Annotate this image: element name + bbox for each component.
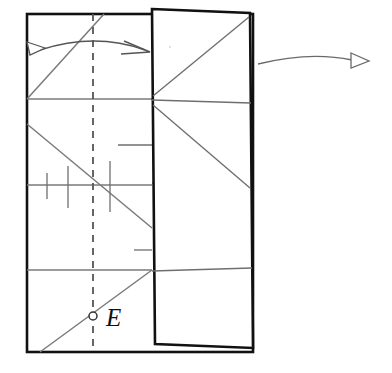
- scan-speck: [169, 46, 171, 48]
- origami-diagram: E: [0, 0, 392, 373]
- origami-figure-root: E: [0, 0, 392, 373]
- point-E-label: E: [105, 304, 121, 331]
- point-E-marker: [89, 312, 97, 320]
